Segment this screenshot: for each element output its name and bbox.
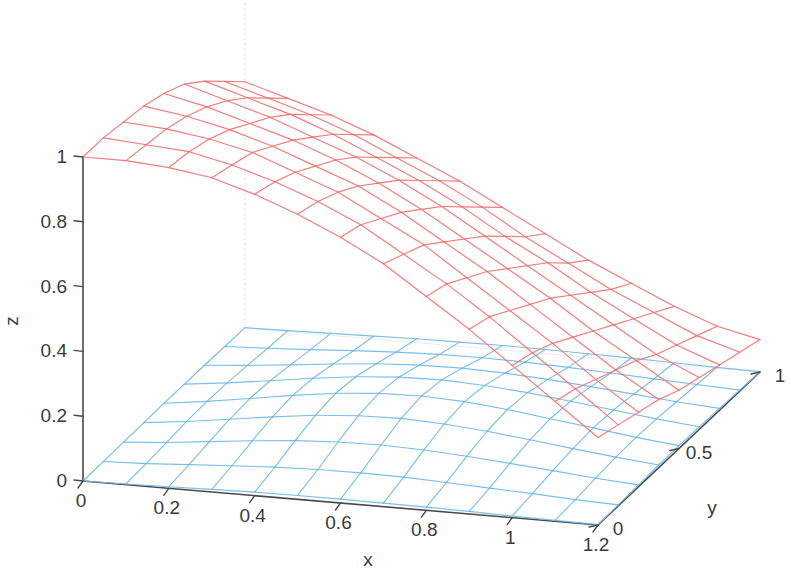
x-tick-label-4: 0.8: [411, 519, 437, 541]
x-tick-label-6: 1.2: [583, 534, 609, 556]
lower-surface-mesh: [83, 328, 760, 525]
x-tick-label-2: 0.4: [239, 505, 265, 527]
figure-canvas: 0 0.2 0.4 0.6 0.8 1 0 0.2 0.4 0.6 0.8 1 …: [0, 0, 791, 571]
z-tick-label-3: 0.6: [41, 276, 67, 298]
z-tick-label-5: 1: [56, 146, 67, 168]
z-tick-label-1: 0.2: [41, 405, 67, 427]
y-tick-label-1: 0.5: [686, 442, 712, 464]
guide-lines-group: [83, 0, 760, 481]
tick-marks-group: [74, 156, 760, 532]
plot-svg: [0, 0, 791, 571]
z-tick-label-0: 0: [56, 470, 67, 492]
x-tick-label-0: 0: [76, 490, 87, 512]
z-axis-label: z: [1, 317, 23, 327]
z-tick-label-4: 0.8: [41, 211, 67, 233]
z-tick-label-2: 0.4: [41, 340, 67, 362]
y-tick-label-0: 0: [613, 518, 624, 540]
x-axis-label: x: [363, 549, 373, 571]
x-tick-label-3: 0.6: [325, 512, 351, 534]
y-tick-label-2: 1: [775, 365, 786, 387]
x-tick-label-5: 1: [505, 527, 516, 549]
x-tick-label-1: 0.2: [154, 497, 180, 519]
y-axis-label: y: [707, 497, 717, 519]
